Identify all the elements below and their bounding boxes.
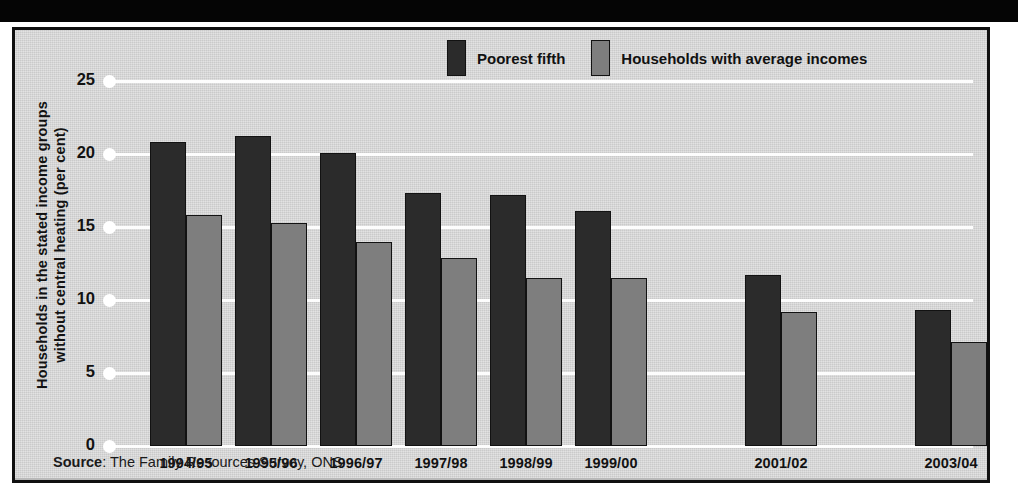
- bar: [150, 142, 186, 446]
- bar: [575, 211, 611, 446]
- source-separator: :: [102, 454, 110, 470]
- bar: [186, 215, 222, 446]
- tick-dot-15: [103, 221, 116, 234]
- plot-area: 0510152025 1994/951995/961996/971997/981…: [15, 30, 987, 480]
- bar: [441, 258, 477, 446]
- bar: [915, 310, 951, 446]
- legend-entry-average-incomes: Households with average incomes: [591, 40, 867, 76]
- top-black-band: [0, 0, 1018, 22]
- legend-label-average-incomes: Households with average incomes: [621, 50, 867, 67]
- source-text: The Family Resources Survey, ONS: [110, 454, 343, 470]
- source-divider: [15, 478, 987, 480]
- bar: [235, 136, 271, 446]
- bar: [271, 223, 307, 446]
- bar: [405, 193, 441, 446]
- y-tick-label-0: 0: [35, 435, 95, 454]
- bar: [490, 195, 526, 446]
- y-tick-label-20: 20: [35, 143, 95, 162]
- tick-dot-20: [103, 148, 116, 161]
- source-note: Source: The Family Resources Survey, ONS: [53, 454, 343, 470]
- x-axis-label: 1999/00: [551, 455, 671, 471]
- tick-dot-25: [103, 75, 116, 88]
- chart-panel: Households in the stated income groups w…: [12, 27, 990, 483]
- bar: [356, 242, 392, 446]
- tick-dot-5: [103, 367, 116, 380]
- legend-entry-poorest-fifth: Poorest fifth: [447, 40, 565, 76]
- y-tick-label-15: 15: [35, 216, 95, 235]
- gridline-25: [111, 80, 973, 83]
- x-axis-label: 2003/04: [891, 455, 990, 471]
- chart-legend: Poorest fifth Households with average in…: [447, 40, 867, 76]
- source-label: Source: [53, 454, 102, 470]
- tick-dot-0: [103, 440, 116, 453]
- x-axis-label: 2001/02: [721, 455, 841, 471]
- legend-swatch-poorest-fifth: [447, 40, 466, 76]
- y-tick-label-5: 5: [35, 362, 95, 381]
- legend-label-poorest-fifth: Poorest fifth: [477, 50, 565, 67]
- bar: [745, 275, 781, 446]
- bar: [526, 278, 562, 446]
- legend-swatch-average-incomes: [591, 40, 610, 76]
- tick-dot-10: [103, 294, 116, 307]
- y-tick-label-25: 25: [35, 70, 95, 89]
- bar: [320, 153, 356, 446]
- bar: [611, 278, 647, 446]
- bar: [951, 342, 987, 446]
- y-tick-label-10: 10: [35, 289, 95, 308]
- bar: [781, 312, 817, 446]
- chart-screenshot: Households in the stated income groups w…: [0, 0, 1018, 496]
